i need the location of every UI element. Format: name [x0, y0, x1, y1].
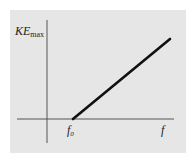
data-line: [73, 39, 170, 119]
x-tick-label-f0: f0: [67, 123, 74, 138]
chart-svg: KEmax f0 f: [0, 0, 196, 163]
x-axis-label: f: [161, 123, 166, 137]
y-axis-label: KEmax: [14, 24, 44, 39]
